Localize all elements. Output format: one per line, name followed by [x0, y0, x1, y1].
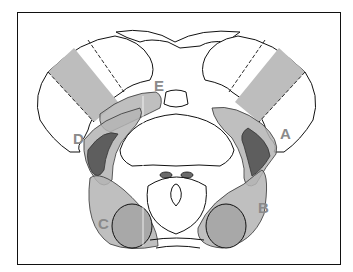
right-lower-oval [206, 204, 246, 248]
base-curve-2 [156, 246, 200, 248]
anatomy-diagram [0, 0, 353, 272]
base-curve [150, 238, 204, 240]
left-lower-oval [112, 204, 152, 248]
central-vertebra [164, 90, 188, 107]
label-c: C [98, 216, 109, 231]
label-d: D [73, 131, 84, 146]
label-a: A [280, 126, 291, 141]
label-e: E [154, 78, 164, 93]
label-b: B [258, 200, 269, 215]
spinal-shape [171, 184, 182, 206]
